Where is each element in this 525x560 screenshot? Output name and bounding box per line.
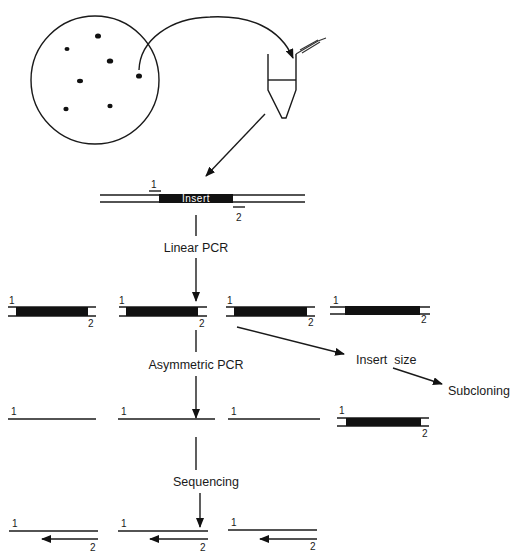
sequencing-reaction: 1 2 <box>9 518 98 553</box>
step-insert-size: Insert size <box>356 353 416 367</box>
picked-colony-dot <box>136 73 142 78</box>
ssdna-product: 1 <box>118 406 215 419</box>
colony-dot <box>77 79 83 83</box>
colony-dot <box>95 33 101 38</box>
svg-text:2: 2 <box>200 542 206 553</box>
pcr-workflow-diagram: Insert 1 2 Linear PCR 1 2 1 2 <box>0 0 525 560</box>
ssdna-product: 1 <box>8 406 96 419</box>
template-dna: Insert 1 2 <box>100 179 305 223</box>
arrow-icon <box>206 114 265 176</box>
svg-text:1: 1 <box>119 295 125 306</box>
primer-1-label: 1 <box>151 179 157 190</box>
microcentrifuge-tube-icon <box>268 38 326 118</box>
dsdna-product: 1 2 <box>8 295 96 329</box>
svg-text:2: 2 <box>421 314 427 325</box>
petri-dish-icon <box>31 16 159 144</box>
colony-dot <box>107 58 113 63</box>
step-asymmetric-pcr: Asymmetric PCR <box>148 358 243 372</box>
sequencing-reaction: 1 2 <box>228 517 317 552</box>
svg-text:1: 1 <box>333 295 339 306</box>
svg-text:1: 1 <box>11 406 17 417</box>
dsdna-product: 1 2 <box>330 295 430 325</box>
asymmetric-pcr-products: 1 1 1 1 2 <box>8 405 429 439</box>
colony-dot <box>65 47 70 51</box>
svg-text:2: 2 <box>199 318 205 329</box>
svg-text:1: 1 <box>231 406 237 417</box>
svg-text:1: 1 <box>121 518 127 529</box>
dsdna-product: 1 2 <box>226 295 315 328</box>
step-subcloning: Subcloning <box>448 384 510 398</box>
dsdna-product: 1 2 <box>337 405 429 439</box>
insert-label: Insert <box>182 193 210 204</box>
colony-dot <box>63 107 68 111</box>
svg-text:1: 1 <box>339 405 345 416</box>
svg-text:1: 1 <box>9 295 15 306</box>
svg-text:2: 2 <box>422 428 428 439</box>
svg-text:2: 2 <box>88 318 94 329</box>
sequencing-reaction: 1 2 <box>118 518 208 553</box>
primer-2-label: 2 <box>236 212 242 223</box>
arrow-icon <box>237 327 344 354</box>
colony-dot <box>107 104 112 108</box>
svg-text:1: 1 <box>12 518 18 529</box>
step-sequencing: Sequencing <box>173 475 239 489</box>
svg-text:1: 1 <box>227 295 233 306</box>
step-linear-pcr: Linear PCR <box>164 241 229 255</box>
sequencing-products: 1 2 1 2 1 2 <box>9 517 317 553</box>
arrow-icon <box>393 368 442 384</box>
svg-text:2: 2 <box>310 541 316 552</box>
svg-text:1: 1 <box>121 406 127 417</box>
svg-text:1: 1 <box>231 517 237 528</box>
svg-text:2: 2 <box>308 317 314 328</box>
transfer-arrow-icon <box>139 17 293 70</box>
linear-pcr-products: 1 2 1 2 1 2 1 2 <box>8 295 430 329</box>
dsdna-product: 1 2 <box>119 295 207 329</box>
ssdna-product: 1 <box>228 406 320 419</box>
svg-text:2: 2 <box>90 542 96 553</box>
